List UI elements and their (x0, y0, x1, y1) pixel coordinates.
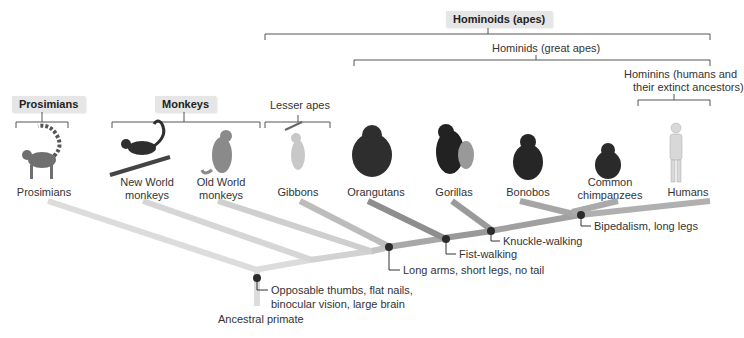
trait-line: Bipedalism, long legs (594, 219, 698, 233)
taxon-label-prosimians: Prosimians (14, 186, 74, 199)
human-icon (670, 123, 682, 182)
taxon-label-bonobos: Bonobos (500, 186, 556, 199)
trait-label-fist-walking: Fist-walking (459, 247, 517, 261)
root-label: Ancestral primate (218, 312, 304, 326)
trait-label-bipedalism: Bipedalism, long legs (594, 219, 698, 233)
orangutan-icon (352, 125, 392, 177)
taxon-line: Humans (660, 186, 716, 199)
taxon-line: Gorillas (426, 186, 482, 199)
taxon-label-common-chimpanzees: Common chimpanzees (572, 176, 648, 202)
taxon-label-old-world-monkeys: Old World monkeys (186, 176, 256, 202)
taxon-line: Bonobos (500, 186, 556, 199)
trait-label-hominoid: Long arms, short legs, no tail (403, 263, 544, 277)
taxon-label-gorillas: Gorillas (426, 186, 482, 199)
trait-line: Long arms, short legs, no tail (403, 263, 544, 277)
trait-label-knuckle-walking: Knuckle-walking (503, 234, 582, 248)
group-label-prosimians: Prosimians (12, 96, 85, 112)
node-bipedalism (577, 211, 585, 219)
node-knuckle-walking (487, 227, 495, 235)
node-hominoid (385, 243, 393, 251)
taxon-line: monkeys (186, 189, 256, 202)
gorilla-icon (436, 124, 474, 174)
chimpanzee-icon (595, 143, 621, 179)
group-label-hominins-1: Hominins (humans and (624, 68, 737, 80)
trait-line: Opposable thumbs, flat nails, (271, 283, 413, 297)
taxon-line: monkeys (112, 189, 182, 202)
trait-line: Fist-walking (459, 247, 517, 261)
taxon-line: Old World (186, 176, 256, 189)
node-fist-walking (442, 235, 450, 243)
lemur-icon (22, 126, 60, 179)
trait-line: Knuckle-walking (503, 234, 582, 248)
group-label-hominoids: Hominoids (apes) (446, 11, 552, 27)
macaque-icon (202, 130, 232, 173)
node-primate (253, 274, 261, 282)
bonobo-icon (513, 134, 543, 180)
taxon-line: Prosimians (14, 186, 74, 199)
taxon-label-new-world-monkeys: New World monkeys (112, 176, 182, 202)
taxon-line: Common (572, 176, 648, 189)
trait-line: binocular vision, large brain (271, 297, 413, 311)
taxon-label-orangutans: Orangutans (342, 186, 410, 199)
group-brackets (16, 28, 710, 128)
group-label-hominids: Hominids (great apes) (492, 42, 600, 54)
taxon-line: Gibbons (268, 186, 328, 199)
animal-illustrations (22, 121, 682, 182)
taxon-line: Orangutans (342, 186, 410, 199)
group-label-hominins-2: their extinct ancestors) (633, 81, 744, 93)
group-label-lesser-apes: Lesser apes (270, 99, 330, 111)
spider-monkey-icon (110, 121, 170, 175)
trait-label-primate: Opposable thumbs, flat nails, binocular … (271, 283, 413, 311)
group-label-monkeys: Monkeys (155, 96, 216, 112)
taxon-label-gibbons: Gibbons (268, 186, 328, 199)
taxon-label-humans: Humans (660, 186, 716, 199)
taxon-line: New World (112, 176, 182, 189)
taxon-line: chimpanzees (572, 189, 648, 202)
gibbon-icon (285, 122, 305, 170)
